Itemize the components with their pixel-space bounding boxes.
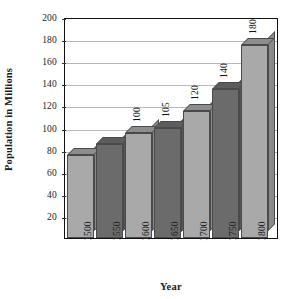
bar-side-face <box>268 31 275 231</box>
bar <box>212 82 239 238</box>
y-axis-title: Population in Millions <box>0 0 18 239</box>
bar-front-face <box>183 111 210 238</box>
y-axis-tick-label: 60 <box>47 168 57 178</box>
y-axis-tick-label: 120 <box>42 101 57 111</box>
y-axis-tick-label: 180 <box>42 35 57 45</box>
y-axis-tick-label: 100 <box>42 124 57 134</box>
x-axis-tick-label: 1650 <box>170 221 180 241</box>
y-axis-tick-label: 40 <box>47 190 57 200</box>
chart-figure: Population in Millions 20018016014012010… <box>0 0 299 299</box>
bar-value-label: 120 <box>190 85 200 100</box>
bar-series: 100105120140180 <box>65 19 277 238</box>
y-axis-tick-label: 200 <box>42 13 57 23</box>
y-axis-title-text: Population in Millions <box>4 68 15 171</box>
x-axis-tick-label: 1600 <box>141 221 151 241</box>
bar-front-face <box>241 45 268 238</box>
y-axis-tick-label: 80 <box>47 146 57 156</box>
bar-front-face <box>212 89 239 238</box>
y-axis-tick-label: 140 <box>42 79 57 89</box>
x-axis-tick-label: 1800 <box>257 221 267 241</box>
bar <box>241 38 268 238</box>
plot-area: 100105120140180 <box>64 18 278 239</box>
bar-value-label: 180 <box>248 19 258 34</box>
x-axis-tick-label: 1500 <box>83 221 93 241</box>
bar-value-label: 105 <box>161 102 171 117</box>
bar-value-label: 140 <box>219 63 229 78</box>
y-axis-tick-label: 160 <box>42 57 57 67</box>
bar-value-label: 100 <box>132 107 142 122</box>
y-axis-tick-label: 20 <box>47 212 57 222</box>
x-axis-tick-label: 1550 <box>112 221 122 241</box>
y-axis-tick-labels: 20018016014012010080604020 <box>18 0 62 239</box>
x-axis-tick-label: 1700 <box>199 221 209 241</box>
x-axis-tick-labels: 1500155016001650170017501800 <box>64 241 278 279</box>
x-axis-title: Year <box>64 281 278 292</box>
x-axis-tick-label: 1750 <box>228 221 238 241</box>
bar <box>183 104 210 238</box>
